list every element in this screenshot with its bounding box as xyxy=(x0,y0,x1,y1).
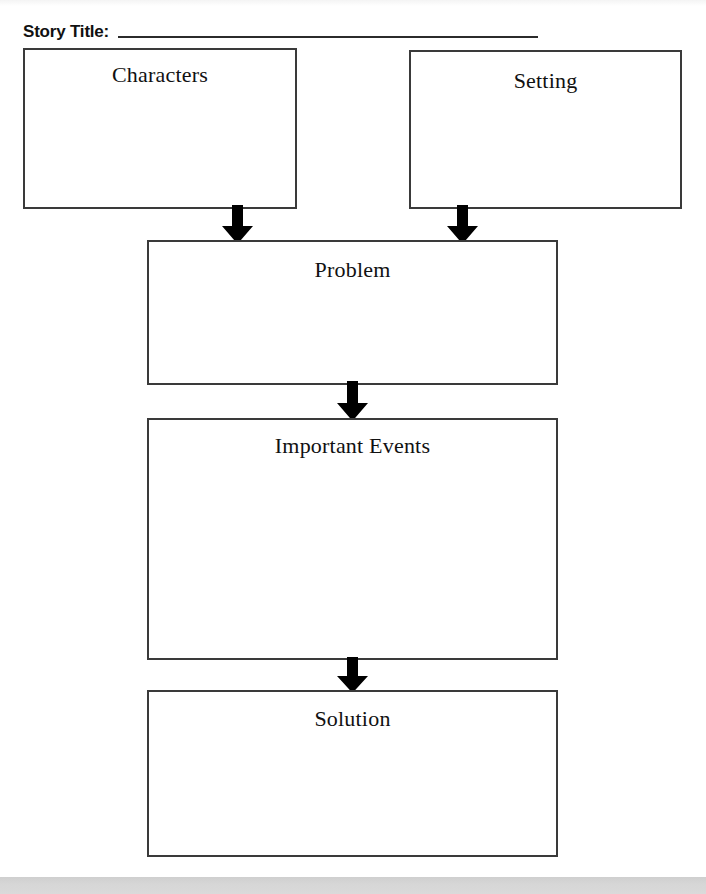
arrow-down-characters-to-problem xyxy=(222,205,253,244)
setting-box[interactable]: Setting xyxy=(409,50,682,209)
setting-box-label: Setting xyxy=(411,68,680,94)
scan-page-bottom-edge xyxy=(0,877,706,894)
story-title-row: Story Title: xyxy=(23,16,683,42)
characters-box-label: Characters xyxy=(25,62,295,88)
arrow-down-problem-to-events xyxy=(337,381,368,421)
solution-box-label: Solution xyxy=(149,706,556,732)
arrow-down-events-to-solution xyxy=(337,657,368,693)
important-events-box-label: Important Events xyxy=(149,433,556,459)
important-events-box[interactable]: Important Events xyxy=(147,418,558,660)
problem-box[interactable]: Problem xyxy=(147,240,558,385)
story-title-label: Story Title: xyxy=(23,22,109,42)
problem-box-label: Problem xyxy=(149,257,556,283)
characters-box[interactable]: Characters xyxy=(23,48,297,209)
story-title-write-in-line[interactable] xyxy=(118,36,538,38)
scan-top-shade xyxy=(0,0,706,6)
story-map-worksheet: Story Title: Characters Setting Problem … xyxy=(0,0,706,894)
arrow-down-setting-to-problem xyxy=(447,205,478,244)
solution-box[interactable]: Solution xyxy=(147,690,558,857)
